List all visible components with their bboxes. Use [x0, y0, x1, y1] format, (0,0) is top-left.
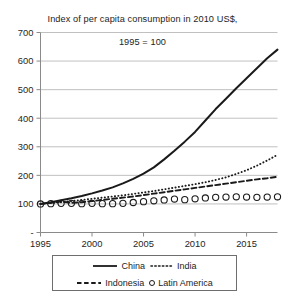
x-tick-label: 2010 [185, 238, 206, 249]
x-tick-label: 2015 [236, 238, 257, 249]
y-tick-label: 400 [18, 113, 34, 124]
legend-label-china: China [121, 261, 145, 271]
data-marker-latin-america [192, 196, 198, 202]
legend-entry-latin-america: Latin America [149, 278, 213, 288]
x-tick-label: 1995 [30, 238, 51, 249]
legend-swatch-solid-icon [92, 262, 118, 270]
data-marker-latin-america [243, 194, 249, 200]
data-marker-latin-america [182, 197, 188, 203]
data-marker-latin-america [151, 198, 157, 204]
data-marker-latin-america [223, 194, 229, 200]
legend-swatch-dotted-icon [150, 262, 174, 270]
y-tick-label: 100 [18, 198, 34, 209]
y-tick-label: 300 [18, 141, 34, 152]
legend-label-indonesia: Indonesia [105, 278, 144, 288]
chart-container: Index of per capita consumption in 2010 … [0, 0, 285, 303]
chart-legend: China India Indonesia Latin America [52, 255, 237, 291]
x-tick-label: 2000 [82, 238, 103, 249]
legend-label-india: India [177, 261, 197, 271]
data-marker-latin-america [254, 194, 260, 200]
legend-label-latin-america: Latin America [158, 278, 213, 288]
legend-swatch-dashed-icon [76, 279, 102, 287]
y-tick-label: 700 [18, 27, 34, 38]
legend-entry-china: China [92, 261, 145, 271]
data-marker-latin-america [202, 195, 208, 201]
y-tick-label: 600 [18, 55, 34, 66]
data-marker-latin-america [130, 199, 136, 205]
y-tick-label: 200 [18, 170, 34, 181]
legend-swatch-circle-icon [149, 280, 155, 286]
y-tick-label: - [30, 227, 33, 238]
data-marker-latin-america [120, 200, 126, 206]
legend-row-1: China India [53, 257, 236, 274]
plot-area: -100200300400500600700199520002005201020… [0, 0, 285, 250]
y-tick-label: 500 [18, 84, 34, 95]
legend-entry-indonesia: Indonesia [76, 278, 144, 288]
data-marker-latin-america [274, 194, 280, 200]
x-tick-label: 2005 [133, 238, 154, 249]
data-marker-latin-america [171, 196, 177, 202]
data-marker-latin-america [161, 197, 167, 203]
data-marker-latin-america [213, 194, 219, 200]
data-marker-latin-america [233, 194, 239, 200]
legend-entry-india: India [150, 261, 197, 271]
legend-row-2: Indonesia Latin America [53, 274, 236, 291]
data-marker-latin-america [264, 194, 270, 200]
